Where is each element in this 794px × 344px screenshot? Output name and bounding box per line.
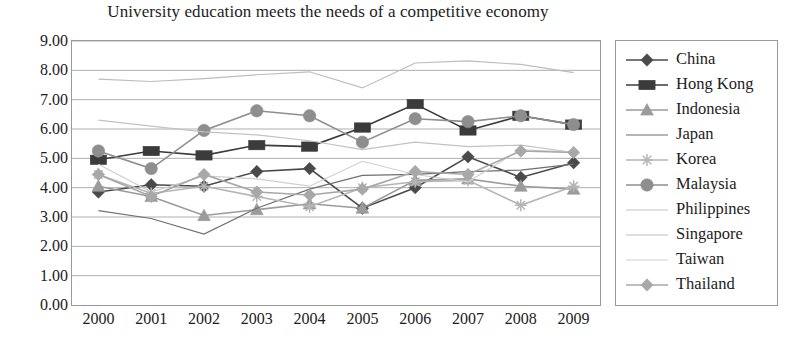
series-line: [98, 61, 573, 88]
legend-item-korea[interactable]: Korea: [616, 147, 777, 172]
series-marker: [249, 140, 265, 149]
legend-item-singapore[interactable]: Singapore: [616, 222, 777, 247]
plot-svg: [72, 41, 600, 305]
y-axis-tick-label: 1.00: [8, 267, 68, 285]
series-marker: [515, 110, 527, 122]
legend-label: Hong Kong: [676, 76, 753, 93]
legend-item-china[interactable]: China: [616, 47, 777, 72]
series-marker: [198, 124, 210, 136]
series-marker: [639, 80, 655, 89]
y-axis-tick-label: 0.00: [8, 296, 68, 314]
series-marker: [303, 110, 315, 122]
series-marker: [251, 105, 263, 117]
y-axis-tick-label: 5.00: [8, 149, 68, 167]
x-axis-tick-label: 2006: [399, 310, 431, 328]
legend-item-philippines[interactable]: Philippines: [616, 197, 777, 222]
legend-item-malaysia[interactable]: Malaysia: [616, 172, 777, 197]
legend-label: China: [676, 51, 715, 68]
legend-swatch-icon: [624, 100, 670, 120]
series-marker: [409, 165, 421, 177]
y-axis-tick-label: 8.00: [8, 61, 68, 79]
legend-label: Malaysia: [676, 176, 736, 193]
series-marker: [462, 151, 474, 163]
legend-swatch-icon: [624, 175, 670, 195]
series-marker: [143, 146, 159, 155]
legend-label: Taiwan: [676, 251, 724, 268]
series-marker: [409, 113, 421, 125]
x-axis-tick-label: 2000: [82, 310, 114, 328]
series-marker: [303, 162, 315, 174]
legend-swatch-icon: [624, 75, 670, 95]
series-malaysia: [92, 105, 580, 175]
x-axis: 2000200120022003200420052006200720082009: [71, 310, 601, 340]
chart-title: University education meets the needs of …: [58, 2, 598, 22]
series-marker: [354, 123, 370, 132]
series-marker: [196, 151, 212, 160]
line-chart: University education meets the needs of …: [0, 0, 794, 344]
legend-swatch-icon: [624, 200, 670, 220]
series-marker: [356, 136, 368, 148]
series-marker: [356, 183, 368, 195]
y-axis-tick-label: 9.00: [8, 32, 68, 50]
series-marker: [198, 168, 210, 180]
legend-label: Indonesia: [676, 101, 740, 118]
x-axis-tick-label: 2007: [452, 310, 484, 328]
series-line: [98, 104, 573, 160]
y-axis-tick-label: 6.00: [8, 120, 68, 138]
series-singapore: [98, 61, 573, 88]
series-marker: [92, 145, 104, 157]
legend-item-indonesia[interactable]: Indonesia: [616, 97, 777, 122]
y-axis-tick-label: 3.00: [8, 208, 68, 226]
plot-area: [71, 40, 601, 306]
legend-item-thailand[interactable]: Thailand: [616, 272, 777, 297]
series-marker: [567, 146, 579, 158]
x-axis-tick-label: 2004: [294, 310, 326, 328]
legend-swatch-icon: [624, 50, 670, 70]
legend-label: Thailand: [676, 276, 735, 293]
series-marker: [641, 154, 653, 166]
legend-label: Philippines: [676, 201, 750, 218]
legend-item-japan[interactable]: Japan: [616, 122, 777, 147]
legend-swatch-icon: [624, 150, 670, 170]
series-marker: [145, 162, 157, 174]
legend-item-taiwan[interactable]: Taiwan: [616, 247, 777, 272]
legend-label: Korea: [676, 151, 716, 168]
legend-item-hong-kong[interactable]: Hong Kong: [616, 72, 777, 97]
legend-swatch-icon: [624, 125, 670, 145]
series-marker: [92, 180, 105, 192]
x-axis-tick-label: 2003: [241, 310, 273, 328]
series-marker: [641, 278, 653, 290]
series-japan: [98, 164, 573, 234]
y-axis-tick-label: 4.00: [8, 179, 68, 197]
x-axis-tick-label: 2005: [346, 310, 378, 328]
x-axis-tick-label: 2009: [558, 310, 590, 328]
series-marker: [462, 115, 474, 127]
series-marker: [641, 53, 653, 65]
series-marker: [567, 118, 579, 130]
x-axis-tick-label: 2001: [135, 310, 167, 328]
series-marker: [92, 168, 104, 180]
series-marker: [251, 165, 263, 177]
y-axis: 9.008.007.006.005.004.003.002.001.000.00: [2, 40, 68, 306]
chart-legend: ChinaHong KongIndonesiaJapanKoreaMalaysi…: [615, 40, 778, 306]
legend-swatch-icon: [624, 275, 670, 295]
series-line: [98, 174, 573, 206]
series-line: [98, 164, 573, 234]
legend-label: Singapore: [676, 226, 743, 243]
y-axis-tick-label: 7.00: [8, 91, 68, 109]
x-axis-tick-label: 2008: [505, 310, 537, 328]
y-axis-tick-label: 2.00: [8, 237, 68, 255]
series-marker: [304, 201, 316, 213]
legend-swatch-icon: [624, 225, 670, 245]
legend-swatch-icon: [624, 250, 670, 270]
series-marker: [515, 199, 527, 211]
legend-label: Japan: [676, 126, 714, 143]
x-axis-tick-label: 2002: [188, 310, 220, 328]
series-marker: [515, 145, 527, 157]
series-hong-kong: [90, 99, 581, 164]
series-marker: [641, 178, 653, 190]
series-marker: [198, 180, 210, 192]
series-marker: [407, 99, 423, 108]
series-marker: [302, 142, 318, 151]
